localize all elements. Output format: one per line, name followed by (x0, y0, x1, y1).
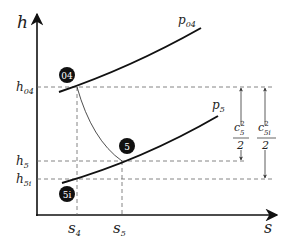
svg-text:2: 2 (236, 139, 244, 152)
tick-h5: h5 (16, 154, 29, 170)
expansion-process-line (77, 87, 122, 161)
y-axis-label: h (17, 12, 28, 32)
x-axis-label: s (264, 218, 272, 237)
isobar-p04 (59, 28, 201, 92)
node-04: 04 (59, 67, 75, 83)
svg-text:5i: 5i (264, 129, 271, 137)
tick-s4: s4 (68, 219, 81, 238)
fraction-c5i-squared-over-2: c2 5i 2 (257, 120, 276, 152)
tick-h04: h04 (16, 80, 34, 96)
diagram-svg: 04 5 5i h s h04 h5 h5i s4 s5 (0, 0, 291, 242)
hs-diagram: 04 5 5i h s h04 h5 h5i s4 s5 (0, 0, 291, 242)
svg-text:04: 04 (61, 71, 73, 81)
tick-h5i: h5i (16, 172, 32, 188)
svg-text:5: 5 (124, 142, 130, 152)
label-p5: p5 (212, 98, 225, 114)
node-5i: 5i (59, 186, 75, 202)
tick-s5: s5 (113, 219, 126, 238)
isobar-p5 (62, 116, 218, 183)
svg-text:2: 2 (261, 139, 269, 152)
svg-text:5i: 5i (63, 190, 72, 200)
label-p04: p04 (178, 13, 196, 29)
node-5: 5 (119, 138, 135, 154)
svg-text:5: 5 (240, 129, 245, 137)
fraction-c5-squared-over-2: c2 5 2 (233, 120, 249, 152)
